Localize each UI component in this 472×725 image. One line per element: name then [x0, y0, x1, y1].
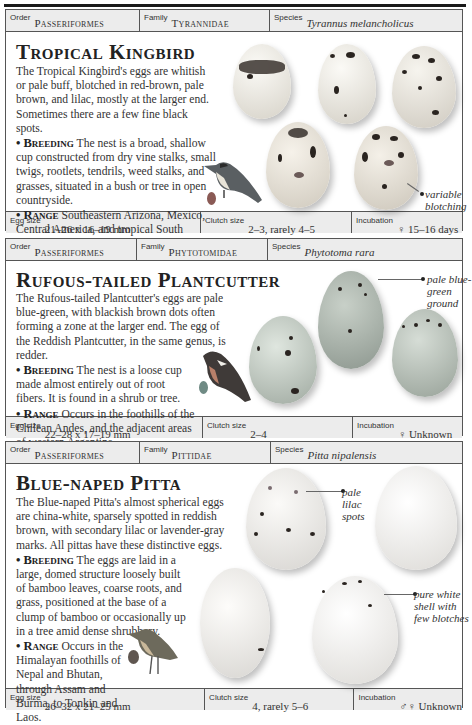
breeding-label: • Breeding — [16, 136, 74, 150]
annotation-pale-blue-green-ground: pale blue-green ground — [427, 273, 472, 309]
range-label: • Range — [16, 407, 59, 421]
taxonomy-header: OrderPasseriformes FamilyPittidae Specie… — [6, 442, 462, 464]
life-size-egg-icon — [207, 192, 216, 205]
order-value: Passeriformes — [34, 17, 104, 29]
description: The Tropical Kingbird's eggs are whitish… — [16, 65, 216, 136]
order-label: Order — [10, 445, 30, 454]
clutch-size-value: 4, rarely 5–6 — [252, 700, 308, 712]
egg-photo-5 — [354, 126, 418, 210]
egg-photo-3 — [200, 568, 270, 678]
family-cell: FamilyPittidae — [140, 442, 271, 463]
egg-photo-4 — [312, 576, 398, 684]
incubation-value: ♀ Unknown — [398, 428, 452, 440]
order-cell: OrderPasseriformes — [6, 239, 137, 260]
incubation-label: Incubation — [356, 216, 393, 225]
order-label: Order — [10, 13, 30, 22]
entry-blue-naped-pitta: OrderPasseriformes FamilyPittidae Specie… — [5, 441, 463, 708]
top-rule — [4, 4, 466, 7]
family-value: Tyrannidae — [172, 17, 229, 29]
annotation-leader-line — [384, 594, 414, 595]
taxonomy-header: OrderPasseriformes FamilyPhytotomidae Sp… — [6, 239, 462, 261]
breeding-label: • Breeding — [16, 363, 74, 377]
annotation-leader-line — [378, 279, 422, 280]
taxonomy-header: OrderPasseriformes FamilyTyrannidae Spec… — [6, 10, 462, 32]
range-section: • Range Occurs in the Himalayan foothill… — [16, 639, 128, 725]
entry-tropical-kingbird: OrderPasseriformes FamilyTyrannidae Spec… — [5, 9, 463, 231]
species-value: Phytotoma rara — [304, 246, 374, 258]
clutch-size-cell: Clutch size2–3, rarely 4–5 — [201, 212, 352, 233]
breeding-label: • Breeding — [16, 553, 74, 567]
annotation-dot — [421, 277, 425, 281]
order-label: Order — [10, 242, 30, 251]
annotation-dot — [420, 192, 424, 196]
species-cell: SpeciesPitta nipalensis — [271, 442, 462, 463]
egg-photo-3 — [392, 46, 456, 128]
egg-photo-2 — [318, 44, 376, 124]
order-cell: OrderPasseriformes — [6, 442, 140, 463]
entry-title: Blue-naped Pitta — [16, 471, 181, 496]
breeding-section: • Breeding The nest is a broad, shallow … — [16, 136, 216, 208]
species-label: Species — [275, 445, 303, 454]
entry-text: The Tropical Kingbird's eggs are whitish… — [16, 65, 216, 252]
order-cell: OrderPasseriformes — [6, 10, 140, 31]
entry-title: Rufous-tailed Plantcutter — [16, 268, 280, 293]
egg-photo-3 — [392, 309, 458, 397]
family-value: Pittidae — [172, 449, 212, 461]
species-cell: SpeciesPhytotoma rara — [268, 239, 462, 260]
order-value: Passeriformes — [34, 449, 104, 461]
incubation-label: Incubation — [357, 421, 394, 430]
incubation-label: Incubation — [358, 693, 395, 702]
egg-photo-1 — [233, 44, 291, 119]
egg-photo-2 — [375, 466, 457, 570]
clutch-size-value: 2–4 — [250, 428, 267, 440]
species-cell: SpeciesTyrannus melancholicus — [270, 10, 462, 31]
family-cell: FamilyTyrannidae — [140, 10, 270, 31]
species-label: Species — [272, 242, 300, 251]
entry-title: Tropical Kingbird — [16, 40, 195, 65]
species-value: Tyrannus melancholicus — [306, 17, 413, 29]
entry-rufous-tailed-plantcutter: OrderPasseriformes FamilyPhytotomidae Sp… — [5, 238, 463, 436]
egg-photo-1 — [249, 316, 317, 404]
breeding-section: • Breeding The nest is a loose cup made … — [16, 363, 196, 407]
annotation-leader-line — [306, 491, 342, 492]
egg-photo-4 — [266, 122, 330, 208]
description: The Blue-naped Pitta's almost spherical … — [16, 496, 236, 553]
family-label: Family — [144, 13, 168, 22]
annotation-pale-lilac-spots: pale lilac spots — [342, 486, 382, 522]
order-value: Passeriformes — [34, 246, 104, 258]
life-size-egg-icon — [128, 650, 139, 664]
family-cell: FamilyPhytotomidae — [137, 239, 268, 260]
incubation-cell: Incubation♂♀ Unknown — [354, 689, 462, 710]
range-label: • Range — [16, 639, 59, 653]
annotation-variable-blotching: variable blotching — [425, 188, 470, 212]
family-value: Phytotomidae — [169, 246, 238, 258]
species-value: Pitta nipalensis — [307, 449, 376, 461]
species-label: Species — [274, 13, 302, 22]
family-label: Family — [144, 445, 168, 454]
family-label: Family — [141, 242, 165, 251]
egg-photo-1 — [246, 468, 326, 570]
incubation-cell: Incubation♀ Unknown — [353, 417, 462, 438]
incubation-value: ♀ 15–16 days — [397, 223, 458, 235]
incubation-value: ♂♀ Unknown — [399, 700, 462, 712]
annotation-pure-white-shell: pure white shell with few blotches — [414, 588, 470, 624]
egg-photo-2 — [318, 271, 384, 369]
clutch-size-value: 2–3, rarely 4–5 — [248, 223, 315, 235]
range-label: • Range — [16, 208, 59, 222]
life-size-egg-icon — [199, 381, 208, 394]
incubation-cell: Incubation♀ 15–16 days — [352, 212, 462, 233]
